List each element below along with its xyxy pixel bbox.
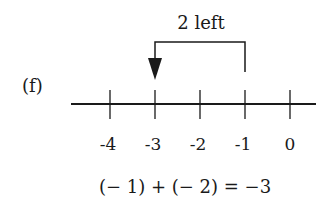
tick-label: -3 bbox=[145, 134, 162, 154]
tick-label: 0 bbox=[285, 134, 296, 154]
jump-label: 2 left bbox=[177, 12, 225, 33]
tick-label: -2 bbox=[190, 134, 207, 154]
arrowhead-icon bbox=[148, 58, 162, 80]
tick-label: -4 bbox=[100, 134, 117, 154]
part-label: (f) bbox=[22, 75, 43, 96]
equation: (− 1) + (− 2) = −3 bbox=[99, 176, 271, 197]
tick-label: -1 bbox=[235, 134, 252, 154]
tick-labels: -4 -3 -2 -1 0 bbox=[100, 134, 296, 154]
number-line-diagram: 2 left (f) -4 -3 -2 -1 0 (− 1) + (− 2) =… bbox=[0, 0, 327, 209]
jump-arrow bbox=[148, 42, 245, 80]
